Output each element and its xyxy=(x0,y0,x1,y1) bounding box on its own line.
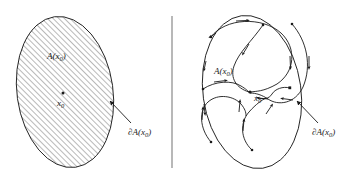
right-region-label: A(x0) xyxy=(213,66,233,77)
figure-canvas: A(x0) x0 ∂A(x0) xyxy=(0,0,347,180)
trajectory-7-source-dot xyxy=(288,86,291,89)
trajectory-4-source-dot xyxy=(202,88,205,91)
left-panel: A(x0) x0 ∂A(x0) xyxy=(7,8,151,178)
left-region-label: A(x0) xyxy=(46,51,66,62)
trajectory-arm-4 xyxy=(202,81,249,93)
trajectory-5-source-dot xyxy=(210,141,213,144)
trajectory-3-source-dot xyxy=(291,23,294,26)
right-equilibrium-point xyxy=(248,90,251,93)
trajectory-arm-2 xyxy=(233,24,265,92)
right-boundary-label: ∂A(x0) xyxy=(312,127,335,138)
trajectory-2-source-dot xyxy=(262,24,265,27)
left-boundary-label: ∂A(x0) xyxy=(128,127,151,138)
region-of-attraction-figure: A(x0) x0 ∂A(x0) xyxy=(0,0,347,180)
left-region-hatch-fill xyxy=(10,8,125,178)
trajectory-6-source-dot xyxy=(251,149,254,152)
trajectory-arm-6 xyxy=(243,98,272,151)
left-equilibrium-point xyxy=(62,92,65,95)
trajectory-arm-7 xyxy=(256,86,291,99)
right-panel: A(x0) x0 ∂A(x0) xyxy=(193,9,335,175)
